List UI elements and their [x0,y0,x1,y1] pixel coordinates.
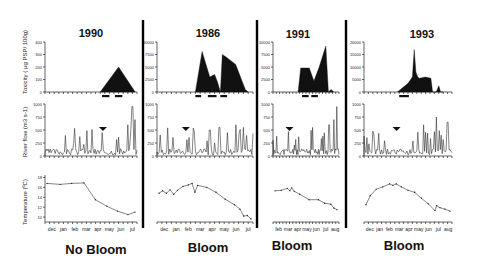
event-arrow-icon [182,127,190,131]
panel-year-1990: 1990 [79,27,103,39]
month-tick-label: feb [275,226,282,232]
month-tick-label: jul [129,226,135,232]
month-tick-label: may [302,226,312,232]
y-tick-label: 14 [38,195,43,200]
river-flow-line [157,125,253,156]
panel-year-1991: 1991 [286,28,310,40]
month-tick-label: may [414,226,424,232]
outcome-label-1990: No Bloom [65,242,126,257]
y-tick-label: 250 [263,141,270,146]
y-tick-label: 2500 [261,77,271,82]
bloom-period-bar [195,95,201,97]
month-tick-label: mar [284,226,293,232]
y-tick-label: 500 [354,128,361,133]
bloom-period-bar [220,95,227,97]
y-tick-label: 2500 [145,77,155,82]
y-tick-label: 7500 [145,52,155,57]
month-tick-label: feb [386,226,393,232]
month-tick-label: apr [405,226,413,232]
temperature-axis-label: Temperature (ºC) [22,179,28,225]
y-tick-label: 0 [359,154,362,159]
y-tick-label: 16 [38,185,43,190]
y-tick-label: 10000 [143,40,155,45]
y-tick-label: 0 [268,90,271,95]
y-tick-label: 500 [35,128,42,133]
event-arrow-icon [393,127,401,131]
y-tick-label: 0 [268,154,271,159]
y-tick-label: 18 [38,175,43,180]
month-tick-label: jan [59,226,67,232]
temperature-line-1990 [47,183,135,215]
month-tick-label: dec [366,226,375,232]
multi-panel-figure: Toxicity ( μg PSP/ 100g) River flow (m3 … [0,0,492,268]
month-tick-label: may [105,226,115,232]
river-flow-line [45,107,137,156]
y-tick-label: 10 [38,215,43,220]
y-tick-label: 0 [40,90,43,95]
bloom-period-bar [208,95,217,97]
y-tick-label: 15000 [350,52,362,57]
outcome-label-1986: Bloom [188,240,228,255]
y-tick-label: 300 [35,52,42,57]
y-tick-label: 1000 [352,102,362,107]
y-tick-label: 12 [38,205,43,210]
month-tick-label: aug [444,226,453,232]
y-tick-label: 200 [35,65,42,70]
month-tick-label: dec [160,226,169,232]
y-tick-label: 0 [359,90,362,95]
y-tick-label: 7500 [261,52,271,57]
month-tick-label: apr [94,226,102,232]
bloom-period-bar [399,95,409,97]
y-tick-label: 750 [354,115,361,120]
y-tick-label: 5000 [261,65,271,70]
y-tick-label: 1000 [261,102,271,107]
month-tick-label: jul [322,226,328,232]
y-tick-label: 750 [35,115,42,120]
y-tick-label: 750 [263,115,270,120]
month-tick-label: jan [375,226,383,232]
event-arrow-icon [99,127,107,131]
bloom-period-bar [102,95,109,97]
temperature-line-1991 [275,188,337,210]
y-tick-label: 1000 [33,102,43,107]
y-tick-label: 400 [35,40,42,45]
y-tick-label: 5000 [145,65,155,70]
y-tick-label: 0 [152,154,155,159]
y-tick-label: 100 [35,77,42,82]
y-tick-label: 10000 [350,65,362,70]
bloom-period-bar [115,95,122,97]
y-tick-label: 750 [147,115,154,120]
y-tick-label: 0 [152,90,155,95]
month-tick-label: mar [82,226,91,232]
event-arrow-icon [286,127,294,131]
month-tick-label: mar [196,226,205,232]
outcome-label-1991: Bloom [272,238,312,253]
y-tick-label: 500 [147,128,154,133]
river-flow-line [273,107,339,156]
toxicity-area-1990 [100,67,135,92]
month-tick-label: jan [172,226,180,232]
y-tick-label: 5000 [352,77,362,82]
month-tick-label: aug [331,226,340,232]
toxicity-area-1986 [195,52,248,93]
month-tick-label: apr [209,226,217,232]
y-tick-label: 250 [354,141,361,146]
month-tick-label: jul [435,226,441,232]
month-tick-label: jun [424,226,432,232]
bloom-period-bar [302,95,309,97]
month-tick-label: feb [71,226,78,232]
month-tick-label: jun [232,226,240,232]
y-tick-label: 1000 [145,102,155,107]
month-tick-label: mar [395,226,404,232]
panel-year-1986: 1986 [196,27,220,39]
toxicity-axis-label: Toxicity ( μg PSP/ 100g) [22,30,28,94]
month-tick-label: apr [294,226,302,232]
toxicity-area-1991 [298,46,334,92]
y-tick-label: 500 [263,128,270,133]
temperature-line-1993 [366,184,450,211]
river-flow-line [364,117,452,156]
toxicity-area-1993 [397,50,443,93]
y-tick-label: 0 [40,154,43,159]
panel-year-1993: 1993 [410,28,434,40]
y-tick-label: 10000 [259,40,271,45]
